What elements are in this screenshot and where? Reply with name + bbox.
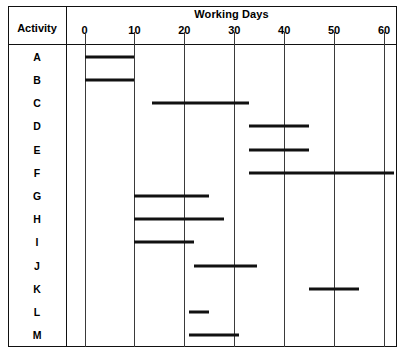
activity-label-k: K: [8, 283, 66, 295]
gridline-day-60: [384, 32, 385, 347]
activity-label-c: C: [8, 97, 66, 109]
gantt-bar-c: [152, 102, 249, 105]
gantt-bar-h: [134, 218, 224, 221]
activity-label-d: D: [8, 120, 66, 132]
gantt-bar-f: [249, 171, 394, 174]
gridline-day-20: [184, 32, 185, 347]
gantt-bar-l: [189, 311, 209, 314]
gantt-bar-j: [194, 264, 256, 267]
activity-label-b: B: [8, 74, 66, 86]
gridline-day-50: [334, 32, 335, 347]
activity-label-e: E: [8, 144, 66, 156]
gantt-bar-d: [249, 125, 309, 128]
gantt-bar-k: [309, 287, 359, 290]
activity-label-f: F: [8, 167, 66, 179]
activity-column-header: Activity: [8, 22, 66, 34]
x-axis-title: Working Days: [66, 8, 397, 20]
gridline-day-30: [234, 32, 235, 347]
activity-label-m: M: [8, 329, 66, 341]
activity-label-g: G: [8, 190, 66, 202]
label-column-separator: [66, 6, 67, 347]
gantt-bar-e: [249, 148, 309, 151]
gantt-chart: Working Days Activity 0102030405060 ABCD…: [0, 0, 405, 354]
gantt-bar-b: [85, 78, 135, 81]
gridline-day-10: [134, 32, 135, 347]
activity-label-l: L: [8, 306, 66, 318]
activity-label-j: J: [8, 260, 66, 272]
gantt-bar-i: [134, 241, 194, 244]
activity-label-i: I: [8, 236, 66, 248]
gantt-bar-m: [189, 334, 239, 337]
activity-label-h: H: [8, 213, 66, 225]
activity-label-a: A: [8, 51, 66, 63]
gridline-day-40: [284, 32, 285, 347]
gantt-bar-a: [85, 55, 135, 58]
gantt-bar-g: [134, 195, 209, 198]
